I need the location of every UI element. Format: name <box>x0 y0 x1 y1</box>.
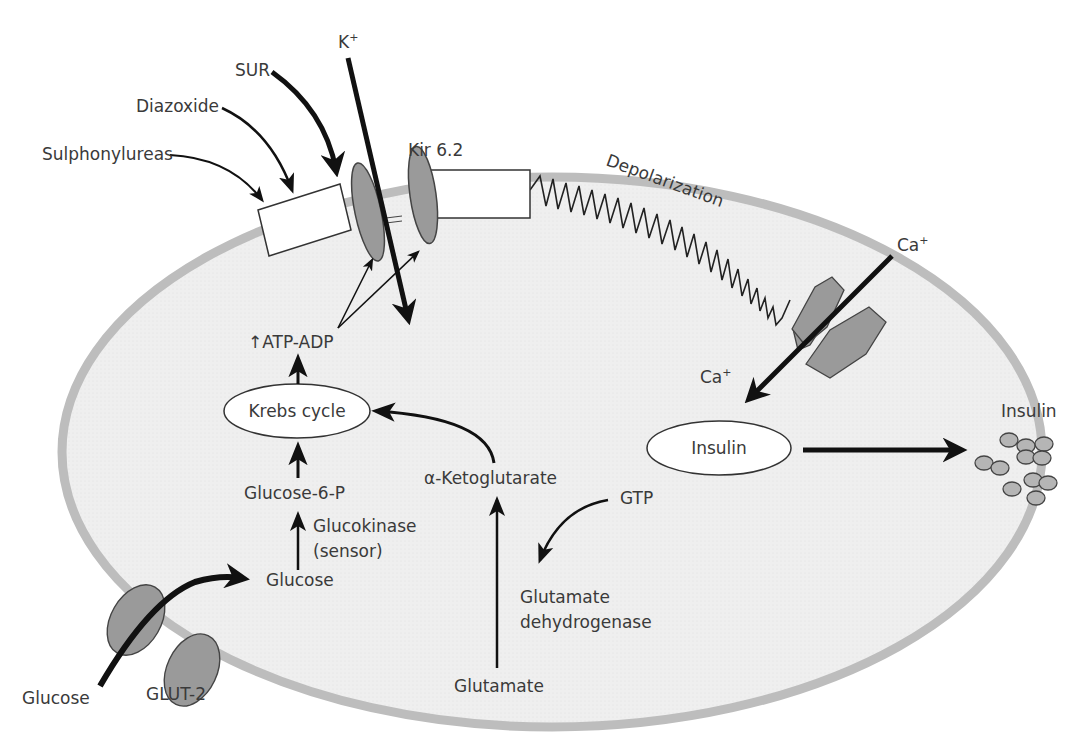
label-insulin-vesicle: Insulin <box>691 438 747 458</box>
label-glutamate: Glutamate <box>454 676 544 696</box>
label-glucose-inside: Glucose <box>266 570 334 590</box>
label-ca-outside: Ca+ <box>897 234 929 255</box>
diazoxide-arrow <box>222 108 292 190</box>
label-insulin-secreted: Insulin <box>1001 401 1057 421</box>
label-gdh-line1: Glutamate <box>520 587 610 607</box>
label-glucose-6-p: Glucose-6-P <box>244 483 345 503</box>
sulphonylureas-arrow <box>170 155 262 200</box>
label-krebs-cycle: Krebs cycle <box>248 401 345 421</box>
label-gtp: GTP <box>620 488 653 508</box>
label-glucose-outside: Glucose <box>22 688 90 708</box>
kir62-channel-box <box>428 170 530 218</box>
label-sulphonylureas: Sulphonylureas <box>42 144 173 164</box>
label-glucokinase: Glucokinase <box>313 516 417 536</box>
label-diazoxide: Diazoxide <box>136 96 219 116</box>
label-atp-adp: ↑ATP-ADP <box>248 332 334 352</box>
label-k-plus: K+ <box>338 31 358 52</box>
label-gdh-line2: dehydrogenase <box>520 612 652 632</box>
sur-arrow <box>272 72 336 170</box>
label-glucokinase-sensor: (sensor) <box>313 541 383 561</box>
label-kir62: Kir 6.2 <box>408 140 463 160</box>
label-alpha-ketoglutarate: α-Ketoglutarate <box>424 468 557 488</box>
label-glut2: GLUT-2 <box>146 684 206 704</box>
beta-cell-diagram: SUR K+ Diazoxide Sulphonylureas Kir 6.2 … <box>0 0 1085 744</box>
label-sur: SUR <box>235 60 270 80</box>
